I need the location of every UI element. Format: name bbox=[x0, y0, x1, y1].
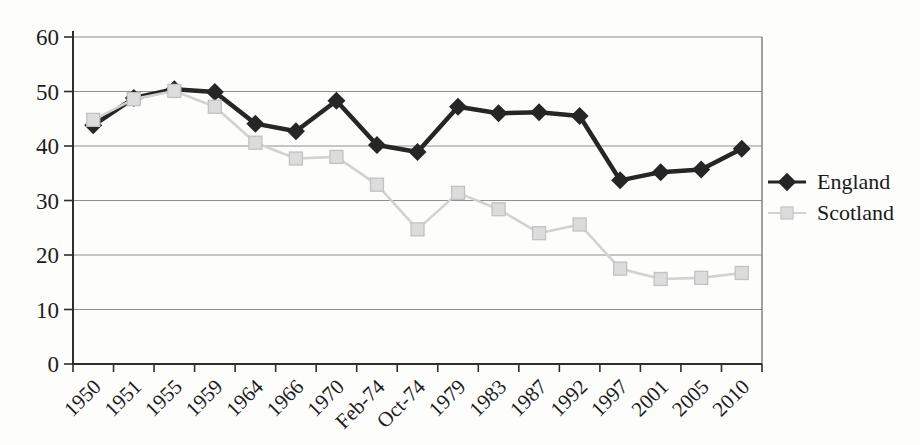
x-tick-label: 1966 bbox=[262, 375, 309, 422]
scotland-data-point bbox=[87, 113, 100, 126]
x-tick-label: 2010 bbox=[708, 375, 755, 422]
scotland-data-point bbox=[249, 136, 262, 149]
legend-label-scotland: Scotland bbox=[817, 202, 894, 224]
scotland-series-line bbox=[93, 91, 741, 279]
legend-label-england: England bbox=[817, 171, 890, 193]
england-data-point bbox=[652, 163, 670, 181]
scotland-data-point bbox=[533, 227, 546, 240]
england-series-line bbox=[93, 89, 741, 180]
diamond-icon bbox=[778, 173, 796, 191]
line-chart-figure: 0102030405060195019511955195919641966197… bbox=[0, 0, 920, 445]
scotland-square-marker-icon bbox=[768, 203, 806, 223]
x-tick-label: 1959 bbox=[181, 375, 228, 422]
legend-item-scotland: Scotland bbox=[768, 200, 894, 226]
y-tick-label: 40 bbox=[36, 134, 59, 159]
scotland-data-point bbox=[735, 266, 748, 279]
x-tick-label: 1950 bbox=[59, 375, 106, 422]
chart-legend: England Scotland bbox=[768, 169, 894, 226]
legend-item-england: England bbox=[768, 169, 894, 195]
y-tick-label: 60 bbox=[36, 25, 59, 50]
england-diamond-marker-icon bbox=[768, 172, 806, 192]
page: { "chart_data": { "type": "line", "title… bbox=[0, 0, 920, 445]
y-tick-label: 0 bbox=[48, 352, 60, 377]
x-tick-label: 1964 bbox=[221, 374, 268, 421]
scotland-data-point bbox=[289, 152, 302, 165]
england-data-point bbox=[490, 104, 508, 122]
square-icon bbox=[781, 207, 794, 220]
y-tick-label: 20 bbox=[36, 243, 59, 268]
england-data-point bbox=[692, 160, 710, 178]
x-tick-label: 1992 bbox=[545, 375, 592, 422]
scotland-data-point bbox=[654, 272, 667, 285]
scotland-data-point bbox=[411, 223, 424, 236]
x-tick-label: 1997 bbox=[586, 375, 633, 422]
y-tick-label: 30 bbox=[36, 189, 59, 214]
scotland-data-point bbox=[168, 84, 181, 97]
y-tick-label: 10 bbox=[36, 298, 59, 323]
scotland-data-point bbox=[127, 93, 140, 106]
scotland-data-point bbox=[370, 178, 383, 191]
scotland-data-point bbox=[614, 262, 627, 275]
x-tick-label: 1983 bbox=[464, 375, 511, 422]
x-tick-label: 1987 bbox=[505, 375, 552, 422]
x-tick-label: 1979 bbox=[424, 375, 471, 422]
england-data-point bbox=[530, 103, 548, 121]
x-tick-label: 2005 bbox=[667, 375, 714, 422]
scotland-data-point bbox=[492, 203, 505, 216]
england-data-point bbox=[733, 140, 751, 158]
scotland-data-point bbox=[452, 186, 465, 199]
x-tick-label: 1951 bbox=[100, 375, 147, 422]
x-tick-label: 2001 bbox=[627, 375, 674, 422]
y-tick-label: 50 bbox=[36, 80, 59, 105]
scotland-data-point bbox=[695, 271, 708, 284]
scotland-data-point bbox=[208, 100, 221, 113]
x-tick-label: 1955 bbox=[140, 375, 187, 422]
scotland-data-point bbox=[573, 218, 586, 231]
scotland-data-point bbox=[330, 150, 343, 163]
